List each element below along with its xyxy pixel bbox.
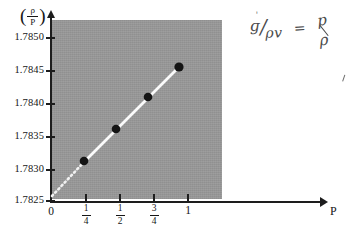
y-tick-label: 1.7850 — [15, 31, 44, 42]
annotation-lhs-fraction: ɡ/ρv — [250, 14, 285, 39]
fraction-denominator: 2 — [117, 217, 124, 227]
x-tick-mark — [153, 194, 155, 202]
figure-container: 1.7850 1.7845 1.7840 1.7835 1.7830 1.782… — [0, 0, 361, 229]
y-title-fraction: ρ P — [27, 6, 38, 27]
y-tick-mark — [46, 136, 55, 138]
x-axis-arrow-icon — [320, 197, 328, 207]
fraction-denominator: 4 — [83, 217, 90, 227]
y-tick-mark — [46, 169, 55, 171]
y-tick-label: 1.7825 — [15, 194, 44, 205]
annotation-equals: = — [293, 19, 306, 36]
y-title-numerator: ρ — [31, 6, 36, 15]
x-tick-mark — [85, 194, 87, 202]
y-axis-line — [50, 16, 52, 203]
fraction-one-quarter: 1 4 — [82, 204, 91, 226]
y-axis-title: ( ρ P ) — [20, 6, 46, 27]
x-tick-label-quarter: 1 4 — [73, 205, 99, 227]
plot-area — [52, 20, 222, 199]
x-tick-label-zero: 0 — [38, 205, 64, 217]
fraction-denominator: 4 — [151, 217, 158, 227]
annotation-lhs-denominator: ρv — [265, 24, 283, 40]
annotation-rhs-denominator: ρ — [319, 32, 329, 49]
pen-stray-mark — [342, 75, 345, 82]
y-tick-label: 1.7835 — [15, 130, 44, 141]
handwritten-annotation: ' ɡ/ρv = p ρ — [250, 13, 331, 50]
fraction-numerator: 1 — [117, 204, 124, 214]
annotation-lhs-numerator: ɡ — [250, 17, 261, 35]
y-tick-mark — [46, 70, 55, 72]
y-tick-label: 1.7840 — [15, 97, 44, 108]
annotation-rhs-fraction: p ρ — [315, 12, 332, 49]
fraction-numerator: 1 — [83, 204, 90, 214]
open-paren: ( — [20, 6, 26, 25]
x-tick-label-three-quarters: 3 4 — [141, 205, 167, 227]
x-axis-title: P — [330, 204, 337, 219]
scan-noise-texture — [52, 20, 222, 199]
y-tick-mark — [46, 200, 55, 202]
close-paren: ) — [39, 6, 45, 25]
y-tick-label: 1.7845 — [15, 64, 44, 75]
fraction-numerator: 3 — [151, 204, 158, 214]
fraction-three-quarters: 3 4 — [150, 204, 159, 226]
annotation-lhs: ɡ/ρv — [250, 14, 285, 39]
x-tick-label-one: 1 — [175, 204, 201, 216]
y-tick-mark — [46, 103, 55, 105]
x-tick-mark — [187, 194, 189, 202]
x-tick-mark — [119, 194, 121, 202]
fraction-one-half: 1 2 — [116, 204, 125, 226]
x-tick-label-half: 1 2 — [107, 205, 133, 227]
y-axis-arrow-icon — [47, 10, 55, 18]
y-tick-mark — [46, 37, 55, 39]
x-axis-line — [50, 201, 322, 203]
y-tick-label: 1.7830 — [15, 163, 44, 174]
y-title-denominator: P — [30, 18, 35, 27]
